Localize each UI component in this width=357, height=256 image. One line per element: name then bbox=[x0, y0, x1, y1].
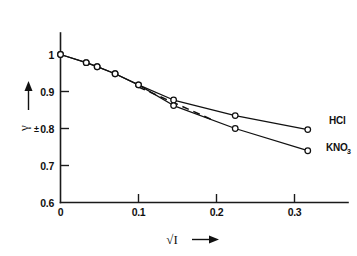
y-tick-label-0.7: 0.7 bbox=[40, 160, 54, 172]
data-point-kno3 bbox=[171, 103, 177, 109]
x-axis-title: √I bbox=[166, 232, 177, 247]
data-point-kno3 bbox=[305, 148, 311, 154]
data-point-kno3 bbox=[58, 52, 64, 58]
data-point-kno3 bbox=[94, 64, 100, 70]
y-tick-label-0.9: 0.9 bbox=[40, 86, 54, 98]
y-tick-label-0.6: 0.6 bbox=[40, 197, 54, 209]
data-point-hcl bbox=[171, 97, 177, 103]
data-point-hcl bbox=[305, 127, 311, 133]
series-label-hcl: HCl bbox=[329, 115, 346, 126]
chart-canvas: 1 0.9 0.8 0.7 0.6 0 0.1 0.2 0.3 HCl KNO … bbox=[0, 0, 357, 256]
x-axis-arrow-icon bbox=[192, 236, 219, 244]
y-tick-label-1: 1 bbox=[48, 49, 54, 61]
chart-figure: 1 0.9 0.8 0.7 0.6 0 0.1 0.2 0.3 HCl KNO … bbox=[0, 0, 357, 256]
series-label-kno3-group: KNO 3 bbox=[326, 142, 351, 155]
data-point-kno3 bbox=[83, 60, 89, 66]
y-axis-title-subscript: ± bbox=[34, 124, 39, 134]
series-label-kno3-subscript: 3 bbox=[347, 148, 351, 155]
series-label-hcl-group: HCl bbox=[329, 115, 346, 126]
y-axis-arrow-icon bbox=[25, 81, 33, 110]
x-tick-label-0: 0 bbox=[58, 206, 64, 218]
x-tick-label-0.2: 0.2 bbox=[210, 206, 224, 218]
x-tick-label-0.3: 0.3 bbox=[288, 206, 302, 218]
y-axis-title-group: γ ± bbox=[16, 81, 39, 134]
data-point-kno3 bbox=[112, 71, 118, 77]
series-label-kno3: KNO bbox=[326, 142, 348, 153]
data-point-kno3 bbox=[136, 82, 142, 88]
data-point-hcl bbox=[232, 113, 238, 119]
data-point-kno3 bbox=[232, 126, 238, 132]
y-tick-label-0.8: 0.8 bbox=[40, 123, 54, 135]
x-tick-label-0.1: 0.1 bbox=[132, 206, 146, 218]
y-tick-marks bbox=[61, 92, 70, 166]
x-tick-marks bbox=[139, 194, 295, 203]
x-axis-title-group: √I bbox=[166, 232, 219, 247]
y-axis-title: γ bbox=[16, 125, 31, 132]
